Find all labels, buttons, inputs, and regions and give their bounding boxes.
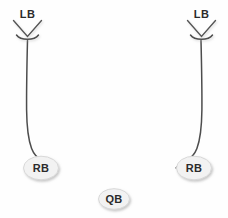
route-right [176, 41, 202, 169]
player-label-lb-right: LB [194, 8, 209, 20]
chevron-down-icon [14, 21, 42, 37]
route-left [27, 41, 53, 169]
player-label-rb-left: RB [33, 162, 50, 174]
play-diagram-canvas: LB LB RB RB QB [0, 0, 228, 218]
player-lb-left[interactable] [14, 21, 42, 40]
route-path-left [27, 41, 53, 169]
player-qb[interactable]: QB [99, 189, 130, 210]
player-label-rb-right: RB [186, 162, 203, 174]
player-rb-left[interactable]: RB [24, 156, 59, 180]
football-play-diagram: LB LB RB RB QB [0, 0, 228, 218]
player-label-qb: QB [105, 193, 122, 205]
player-lb-right[interactable] [188, 21, 216, 40]
route-path-right [176, 41, 202, 169]
player-rb-right[interactable]: RB [177, 156, 212, 180]
player-label-lb-left: LB [20, 8, 35, 20]
chevron-down-icon [188, 21, 216, 37]
